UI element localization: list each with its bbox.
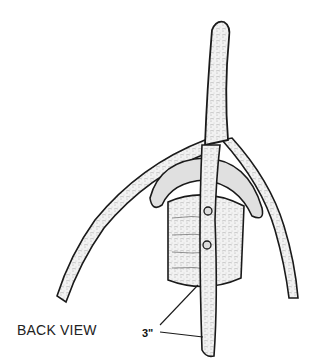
branch-illustration: [0, 0, 315, 361]
screw-hole-upper: [204, 207, 212, 215]
dimension-label: 3": [142, 327, 153, 339]
top-stem: [205, 22, 229, 145]
screw-hole-lower: [203, 241, 211, 249]
view-label: BACK VIEW: [17, 322, 97, 338]
